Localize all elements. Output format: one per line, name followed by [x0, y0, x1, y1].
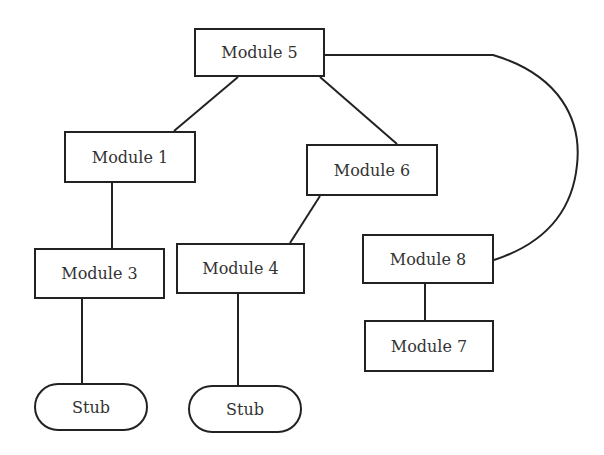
module-4-node: Module 4 [176, 243, 305, 294]
module-4-label: Module 4 [202, 259, 278, 278]
module-5-label: Module 5 [221, 43, 297, 62]
stub-node-1: Stub [34, 383, 148, 431]
module-8-label: Module 8 [390, 250, 466, 269]
module-6-label: Module 6 [334, 161, 410, 180]
stub-2-label: Stub [226, 400, 264, 419]
module-7-node: Module 7 [364, 320, 494, 372]
edge-m5-m1 [174, 77, 238, 131]
module-7-label: Module 7 [391, 337, 467, 356]
stub-1-label: Stub [72, 398, 110, 417]
edge-m6-m4 [290, 196, 320, 243]
edge-m5-m6 [320, 77, 397, 144]
module-5-node: Module 5 [194, 28, 325, 77]
module-6-node: Module 6 [306, 144, 438, 196]
module-1-label: Module 1 [92, 148, 168, 167]
module-8-node: Module 8 [362, 234, 494, 284]
module-3-label: Module 3 [61, 264, 137, 283]
module-3-node: Module 3 [34, 248, 165, 299]
module-1-node: Module 1 [64, 131, 196, 183]
stub-node-2: Stub [188, 385, 302, 433]
